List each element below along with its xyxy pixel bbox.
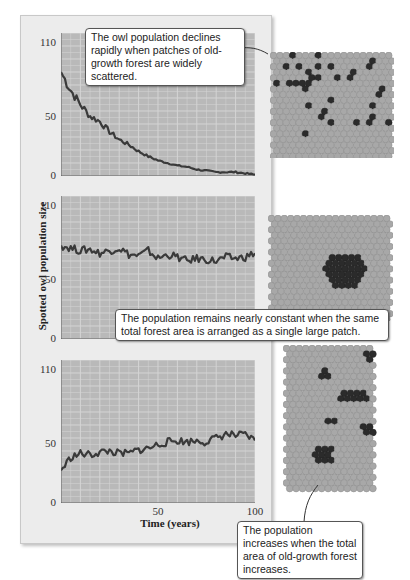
ytick-50: 50 [26,437,56,449]
hex-map-scattered [270,52,394,158]
ytick-0: 0 [26,169,56,181]
y-axis-label: Spotted owl population size [36,186,48,346]
ytick-0: 0 [26,496,56,508]
xtick-100: 100 [240,505,270,517]
callout-scattered: The owl population declines rapidly when… [85,28,245,86]
plot-increase [61,360,255,503]
xtick-50: 50 [143,505,173,517]
ytick-110: 110 [26,363,56,375]
ytick-110: 110 [26,36,56,48]
callout-increase: The population increases when the total … [237,521,363,579]
ytick-50: 50 [26,110,56,122]
x-axis-label: Time (years) [120,517,220,529]
hex-map-increase [283,345,378,493]
hex-map-single-patch [268,215,393,321]
plot-svg [61,360,255,503]
callout-single-patch: The population remains nearly constant w… [115,309,389,341]
